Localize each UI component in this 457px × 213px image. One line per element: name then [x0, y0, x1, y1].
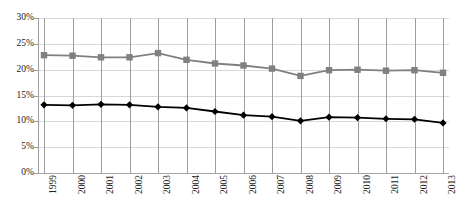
data-point-marker: [240, 62, 246, 68]
data-point-marker: [97, 101, 104, 108]
data-point-marker: [411, 116, 418, 123]
data-point-marker: [41, 52, 47, 58]
data-point-marker: [354, 67, 360, 73]
data-point-marker: [155, 50, 161, 56]
data-point-marker: [212, 60, 218, 66]
data-point-marker: [268, 113, 275, 120]
data-point-marker: [326, 67, 332, 73]
data-point-marker: [354, 114, 361, 121]
data-point-marker: [126, 54, 132, 60]
data-point-marker: [69, 102, 76, 109]
data-point-marker: [325, 114, 332, 121]
data-point-marker: [183, 57, 189, 63]
data-point-marker: [439, 119, 446, 126]
data-point-marker: [383, 68, 389, 74]
data-point-marker: [211, 108, 218, 115]
data-point-marker: [40, 101, 47, 108]
data-point-marker: [69, 53, 75, 59]
data-point-marker: [240, 112, 247, 119]
data-point-marker: [297, 117, 304, 124]
data-point-marker: [411, 67, 417, 73]
data-point-marker: [183, 104, 190, 111]
data-point-marker: [98, 54, 104, 60]
data-point-marker: [382, 115, 389, 122]
data-point-marker: [269, 65, 275, 71]
data-point-marker: [126, 101, 133, 108]
data-point-marker: [297, 73, 303, 79]
data-point-marker: [154, 103, 161, 110]
data-point-marker: [440, 70, 446, 76]
